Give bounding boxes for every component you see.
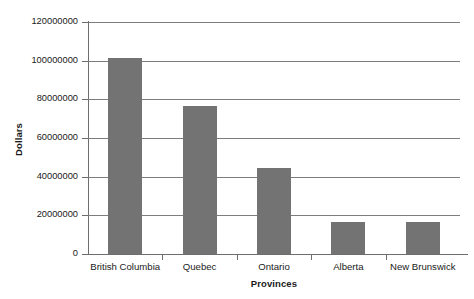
y-axis-tick-label: 100000000: [0, 56, 78, 65]
x-axis-tick: [162, 255, 163, 260]
bar: [331, 222, 365, 254]
bar: [108, 58, 142, 254]
x-axis-title: Provinces: [88, 278, 460, 289]
bar: [183, 106, 217, 254]
y-axis-tick-label: 80000000: [0, 94, 78, 103]
x-axis-tick: [237, 255, 238, 260]
bar: [406, 222, 440, 254]
y-axis-tick-label: 40000000: [0, 172, 78, 181]
x-axis-category-label: New Brunswick: [380, 261, 466, 272]
y-axis-tick: [82, 254, 88, 255]
y-axis-tick-label: 60000000: [0, 133, 78, 142]
x-axis-tick: [311, 255, 312, 260]
bar: [257, 168, 291, 254]
x-axis-tick: [386, 255, 387, 260]
bar-chart: Dollars 02000000040000000600000008000000…: [0, 0, 474, 299]
bars-layer: [88, 22, 460, 254]
y-axis-tick-label: 20000000: [0, 210, 78, 219]
y-axis-tick-label: 0: [0, 249, 78, 258]
x-axis-line: [88, 254, 468, 255]
y-axis-tick-label: 120000000: [0, 17, 78, 26]
